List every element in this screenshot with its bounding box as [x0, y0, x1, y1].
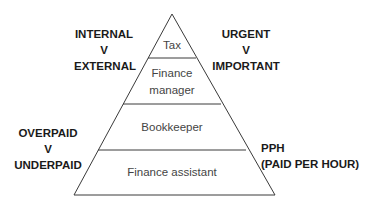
label-line: URGENT: [210, 26, 282, 42]
label-line: UNDERPAID: [14, 157, 82, 173]
tier-finance-assistant: Finance assistant: [102, 164, 242, 181]
tier-finance-manager-line2: manager: [132, 82, 212, 99]
label-line: IMPORTANT: [210, 58, 282, 74]
tier-bookkeeper-label: Bookkeeper: [141, 121, 202, 133]
tier-bookkeeper: Bookkeeper: [112, 119, 232, 136]
label-line: V: [14, 141, 82, 157]
label-line: V: [210, 42, 282, 58]
label-line: V: [74, 42, 134, 58]
tier-tax: Tax: [142, 37, 202, 54]
tier-finance-assistant-label: Finance assistant: [127, 166, 217, 178]
tier-tax-label: Tax: [163, 39, 181, 51]
tier-finance-manager: Finance manager: [132, 65, 212, 99]
label-line: PPH: [261, 140, 366, 156]
tier-finance-manager-line1: Finance: [132, 65, 212, 82]
label-line: INTERNAL: [74, 26, 134, 42]
label-internal-v-external: INTERNAL V EXTERNAL: [74, 26, 134, 74]
label-line: EXTERNAL: [74, 58, 134, 74]
label-overpaid-v-underpaid: OVERPAID V UNDERPAID: [14, 125, 82, 173]
label-line: (PAID PER HOUR): [261, 156, 366, 172]
label-line: OVERPAID: [14, 125, 82, 141]
label-urgent-v-important: URGENT V IMPORTANT: [210, 26, 282, 74]
label-pph: PPH (PAID PER HOUR): [261, 140, 366, 172]
